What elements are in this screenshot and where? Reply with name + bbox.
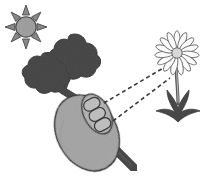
sun-disc (16, 17, 36, 37)
illustration-svg (0, 0, 216, 182)
illustration-canvas: Grayscale line illustration: sun, tree, … (0, 0, 216, 182)
flower-center (172, 48, 182, 58)
